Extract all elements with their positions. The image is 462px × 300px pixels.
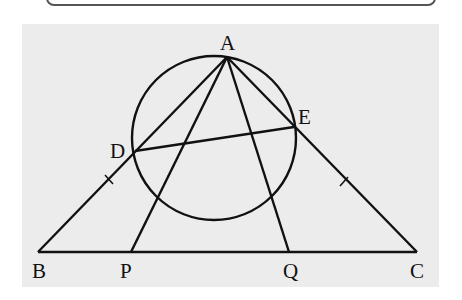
segment-AC — [227, 57, 417, 252]
label-D: D — [110, 139, 125, 163]
label-C: C — [410, 259, 424, 283]
label-B: B — [32, 259, 46, 283]
segment-AQ — [227, 57, 289, 252]
segment-AB — [38, 57, 227, 252]
label-A: A — [220, 31, 236, 55]
geometry-diagram: A B C D E P Q — [0, 0, 462, 300]
segment-AP — [131, 57, 227, 252]
label-P: P — [120, 259, 132, 283]
label-Q: Q — [283, 259, 298, 283]
label-E: E — [298, 105, 311, 129]
segment-DE — [135, 127, 294, 151]
